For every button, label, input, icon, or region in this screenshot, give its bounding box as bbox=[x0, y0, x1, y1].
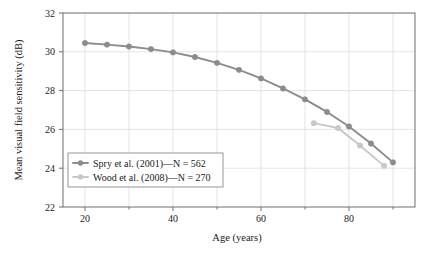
legend-label: Wood et al. (2008)—N = 270 bbox=[93, 172, 211, 184]
data-point bbox=[214, 60, 219, 65]
data-point bbox=[302, 97, 307, 102]
data-point bbox=[390, 160, 395, 165]
data-point bbox=[104, 42, 109, 47]
y-tick-label: 26 bbox=[45, 124, 55, 135]
data-point bbox=[311, 120, 316, 125]
y-tick-label: 22 bbox=[45, 202, 55, 213]
chart-legend: Spry et al. (2001)—N = 562Wood et al. (2… bbox=[68, 153, 223, 187]
data-point bbox=[368, 141, 373, 146]
chart-background bbox=[0, 0, 435, 255]
chart-figure: 22242628303220406080 Spry et al. (2001)—… bbox=[0, 0, 435, 255]
y-tick-label: 32 bbox=[45, 8, 55, 19]
y-axis-title: Mean visual field sensitivity (dB) bbox=[13, 39, 25, 181]
x-tick-label: 40 bbox=[168, 213, 178, 224]
legend-swatch-marker bbox=[78, 174, 83, 179]
data-point bbox=[236, 67, 241, 72]
x-axis-title: Age (years) bbox=[212, 232, 262, 244]
x-tick-label: 60 bbox=[256, 213, 266, 224]
data-point bbox=[82, 40, 87, 45]
data-point bbox=[170, 50, 175, 55]
data-point bbox=[280, 86, 285, 91]
data-point bbox=[192, 54, 197, 59]
data-point bbox=[258, 76, 263, 81]
legend-label: Spry et al. (2001)—N = 562 bbox=[93, 158, 206, 170]
x-tick-label: 80 bbox=[344, 213, 354, 224]
y-tick-label: 24 bbox=[45, 163, 55, 174]
data-point bbox=[148, 46, 153, 51]
x-tick-label: 20 bbox=[80, 213, 90, 224]
line-chart: 22242628303220406080 Spry et al. (2001)—… bbox=[0, 0, 435, 255]
data-point bbox=[324, 109, 329, 114]
data-point bbox=[126, 44, 131, 49]
y-tick-label: 30 bbox=[45, 46, 55, 57]
data-point bbox=[346, 124, 351, 129]
data-point bbox=[357, 143, 362, 148]
legend-swatch-marker bbox=[78, 160, 83, 165]
y-tick-label: 28 bbox=[45, 85, 55, 96]
data-point bbox=[335, 125, 340, 130]
data-point bbox=[382, 163, 387, 168]
